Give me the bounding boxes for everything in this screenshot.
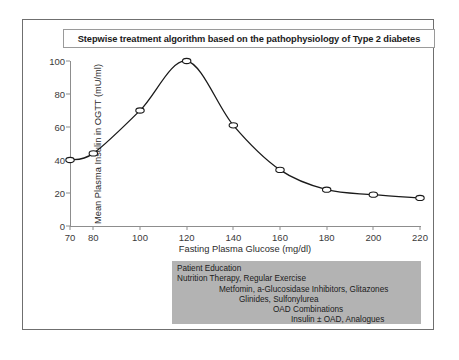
data-point-marker	[276, 167, 284, 172]
y-tick-label: 40	[54, 155, 65, 166]
x-tick-label: 180	[319, 232, 335, 243]
y-tick-label: 80	[54, 89, 65, 100]
x-axis-line	[70, 226, 421, 227]
data-point-marker	[136, 108, 144, 113]
y-tick-label: 100	[49, 56, 65, 67]
x-tick-label: 160	[272, 232, 288, 243]
chart-title-box: Stepwise treatment algorithm based on th…	[63, 29, 435, 48]
data-point-marker	[66, 157, 74, 162]
treatment-line: OAD Combinations	[177, 305, 416, 315]
x-tick-mark	[140, 226, 141, 230]
x-tick-label: 140	[225, 232, 241, 243]
figure-root: Stepwise treatment algorithm based on th…	[0, 0, 459, 360]
y-tick-label: 20	[54, 188, 65, 199]
x-tick-label: 80	[88, 232, 99, 243]
x-axis-label: Fasting Plasma Glucose (mg/dl)	[70, 244, 420, 254]
treatment-algorithm-box: Patient Education Nutrition Therapy, Reg…	[172, 261, 421, 324]
x-tick-mark	[93, 226, 94, 230]
x-tick-label: 70	[65, 232, 76, 243]
y-tick-label: 0	[60, 221, 65, 232]
x-tick-mark	[233, 226, 234, 230]
x-tick-label: 100	[132, 232, 148, 243]
data-point-marker	[416, 195, 424, 200]
data-point-marker	[89, 151, 97, 156]
insulin-curve	[70, 61, 420, 226]
x-tick-label: 200	[365, 232, 381, 243]
x-tick-mark	[420, 226, 421, 230]
x-tick-mark	[280, 226, 281, 230]
curve-path	[70, 61, 420, 198]
x-tick-mark	[186, 226, 187, 230]
data-point-marker	[322, 187, 330, 192]
treatment-line: Patient Education	[177, 264, 416, 274]
plot-area: Mean Plasma Insulin in OGTT (mU/ml) Fast…	[70, 61, 420, 226]
x-tick-mark	[70, 226, 71, 230]
x-tick-label: 120	[179, 232, 195, 243]
data-point-marker	[369, 192, 377, 197]
data-point-marker	[182, 58, 190, 63]
treatment-line: Metfomin, a-Glucosidase Inhibitors, Glit…	[177, 285, 416, 295]
page-title: Stepwise treatment algorithm based on th…	[78, 34, 420, 44]
x-tick-mark	[326, 226, 327, 230]
treatment-line: Glinides, Sulfonylurea	[177, 295, 416, 305]
data-point-marker	[229, 123, 237, 128]
x-tick-label: 220	[412, 232, 428, 243]
x-tick-mark	[373, 226, 374, 230]
treatment-line: Nutrition Therapy, Regular Exercise	[177, 274, 416, 284]
y-tick-label: 60	[54, 122, 65, 133]
treatment-line: Insulin ± OAD, Analogues	[177, 315, 416, 325]
